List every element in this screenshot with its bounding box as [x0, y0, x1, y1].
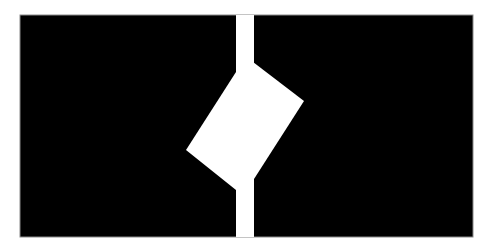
- figure-canvas: [0, 0, 490, 245]
